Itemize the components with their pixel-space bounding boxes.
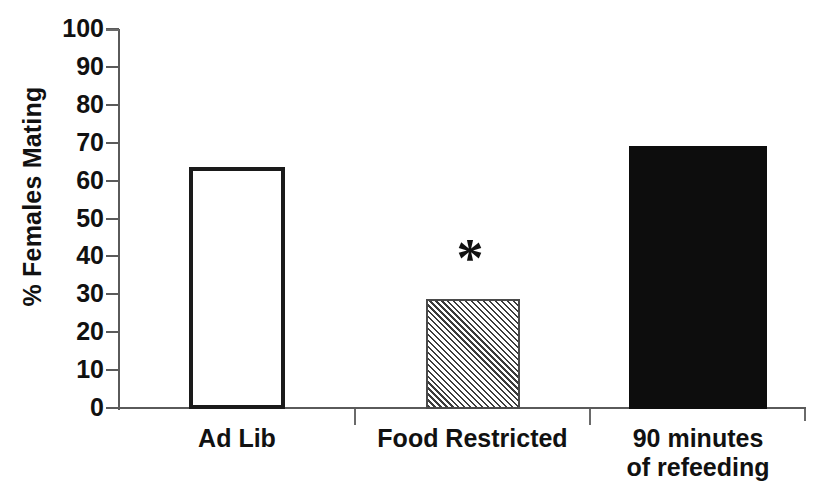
y-axis-tick: [106, 407, 119, 409]
y-axis-tick: [106, 180, 119, 182]
y-axis-tick-label: 70: [42, 130, 104, 155]
y-axis-tick-label: 0: [42, 395, 104, 420]
y-axis-tick: [106, 66, 119, 68]
y-axis-tick: [106, 369, 119, 371]
y-axis-tick-label: 60: [42, 168, 104, 193]
y-axis-tick-label: 80: [42, 92, 104, 117]
x-axis-category-label-line: Ad Lib: [198, 424, 276, 452]
y-axis-tick-label: 50: [42, 206, 104, 231]
y-axis-tick-labels: 1009080706050403020100: [40, 0, 104, 503]
x-axis-category-label: Ad Lib: [119, 424, 355, 453]
significance-asterisk: *: [457, 231, 484, 285]
y-axis-line: [118, 29, 120, 410]
bar: [629, 146, 767, 409]
y-axis-tick-label: 10: [42, 357, 104, 382]
y-axis-tick: [106, 104, 119, 106]
bar: [426, 299, 520, 409]
bar: [189, 167, 285, 409]
x-axis-category-label-line: 90 minutes: [633, 424, 764, 452]
y-axis-tick-label: 90: [42, 54, 104, 79]
y-axis-tick-label: 40: [42, 243, 104, 268]
x-axis-category-label: 90 minutesof refeeding: [590, 424, 806, 482]
y-axis-tick-label: 20: [42, 319, 104, 344]
y-axis-tick: [106, 142, 119, 144]
y-axis-tick: [106, 331, 119, 333]
y-axis-tick-label: 100: [42, 16, 104, 41]
y-axis-tick-label: 30: [42, 281, 104, 306]
y-axis-tick: [106, 293, 119, 295]
x-axis-category-separator-tick: [354, 409, 356, 425]
x-axis-category-label: Food Restricted: [355, 424, 590, 453]
bar-chart: % Females Mating 1009080706050403020100 …: [0, 0, 830, 503]
x-axis-category-label-line: of refeeding: [590, 453, 806, 482]
x-axis-right-cap: [804, 409, 806, 421]
y-axis-tick: [106, 218, 119, 220]
x-axis-category-label-line: Food Restricted: [377, 424, 567, 452]
y-axis-tick: [106, 255, 119, 257]
x-axis-category-separator-tick: [589, 409, 591, 425]
y-axis-top-cap: [106, 29, 119, 31]
